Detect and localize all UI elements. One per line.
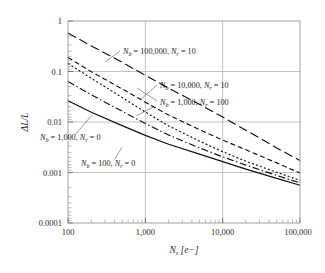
- x-tick-label-100: 100: [62, 227, 75, 237]
- y-tick-label-1: 1: [58, 16, 62, 26]
- svg-text:ΔL/L: ΔL/L: [20, 113, 30, 133]
- y-tick-label-0-001: 0.001: [43, 168, 62, 178]
- figure-container: 1 0.1 0.01 0.001 0.0001 100 1,000 10,000…: [0, 0, 325, 273]
- x-tick-label-1000: 1,000: [136, 227, 155, 237]
- annotation-nb1000-nr0: Nb = 1,000, Nr = 0: [39, 133, 101, 143]
- y-tick-label-0-01: 0.01: [47, 117, 62, 127]
- y-axis-title: ΔL/L: [20, 113, 30, 133]
- annotation-nb1000-nr100: Nb = 1,000, Nr = 100: [159, 98, 229, 108]
- x-axis-title: Ns [e−]: [168, 245, 198, 256]
- x-axis-title-unit: [e−]: [181, 245, 199, 255]
- y-tick-label-0-1: 0.1: [51, 67, 62, 77]
- x-tick-label-100000: 100,000: [284, 227, 312, 237]
- y-axis-title-denominator: L: [20, 113, 30, 119]
- x-tick-label-10000: 10,000: [211, 227, 234, 237]
- log-log-chart: 1 0.1 0.01 0.001 0.0001 100 1,000 10,000…: [0, 0, 325, 273]
- annotation-nb10000-nr10: Nb = 10,000, Nr = 10: [159, 81, 229, 91]
- y-tick-label-0-0001: 0.0001: [39, 218, 62, 228]
- annotation-nb100000-nr10: Nb = 100,000, Nr = 10: [122, 47, 196, 57]
